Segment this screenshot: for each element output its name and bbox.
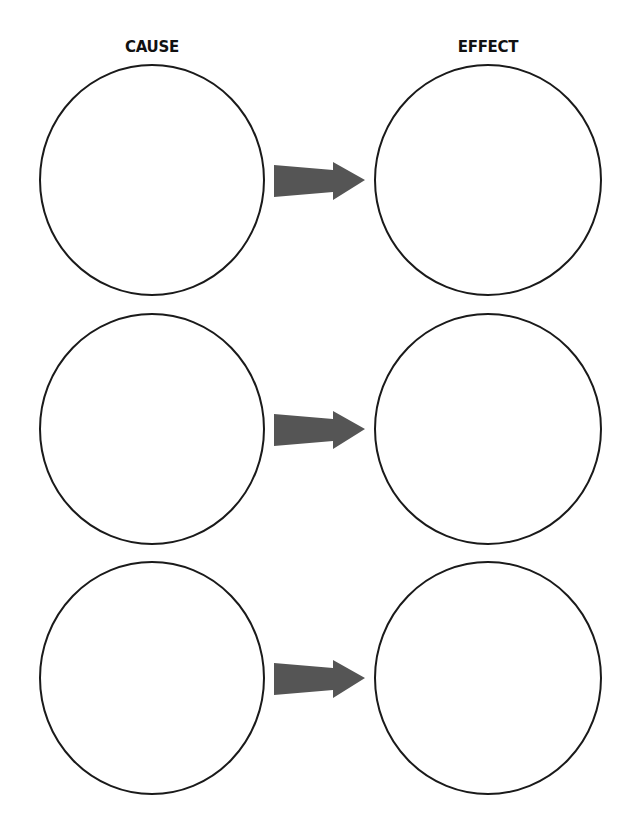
cause-circle-3[interactable] [40, 562, 264, 794]
arrow-right-icon [274, 660, 365, 698]
cause-circle-2[interactable] [40, 314, 264, 544]
row-1 [40, 65, 601, 295]
arrow-right-icon [274, 162, 365, 200]
cause-effect-diagram [0, 0, 618, 829]
effect-circle-3[interactable] [375, 562, 601, 794]
effect-circle-1[interactable] [375, 65, 601, 295]
row-3 [40, 562, 601, 794]
cause-circle-1[interactable] [40, 65, 264, 295]
effect-circle-2[interactable] [375, 314, 601, 544]
arrow-right-icon [274, 411, 365, 449]
row-2 [40, 314, 601, 544]
